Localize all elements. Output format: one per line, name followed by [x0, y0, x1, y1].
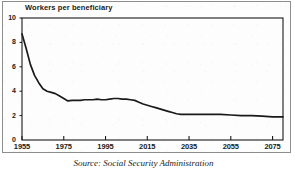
y-tick-label: 4	[2, 87, 16, 95]
plot-frame	[22, 18, 283, 140]
x-tick-label: 2055	[216, 142, 246, 151]
y-tick-label: 6	[2, 63, 16, 71]
y-tick-label: 8	[2, 38, 16, 46]
series-line-workers-per-beneficiary	[22, 34, 283, 117]
source-caption: Source: Social Security Administration	[0, 158, 291, 169]
x-tick-label: 1995	[91, 142, 121, 151]
x-tick-label: 2075	[258, 142, 288, 151]
y-tick-label: 2	[2, 112, 16, 120]
x-tick-label: 1975	[49, 142, 79, 151]
y-tick-label: 10	[2, 14, 16, 22]
x-tick-label: 2015	[132, 142, 162, 151]
x-tick-label: 2035	[174, 142, 204, 151]
axis-ticks	[20, 18, 273, 140]
x-tick-label: 1955	[7, 142, 37, 151]
figure-container: Workers per beneficiary 0246810 19551975…	[0, 0, 295, 175]
